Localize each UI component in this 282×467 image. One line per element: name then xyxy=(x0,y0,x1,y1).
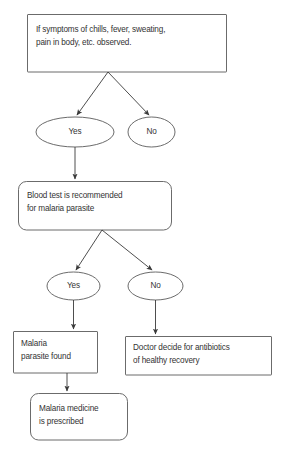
flowchart-canvas: If symptoms of chills, fever, sweating, … xyxy=(0,0,282,467)
node-label-parasite-found: Malaria parasite found xyxy=(21,338,95,363)
node-symptoms[interactable]: If symptoms of chills, fever, sweating, … xyxy=(27,14,227,72)
node-no-1[interactable]: No xyxy=(128,117,175,147)
node-yes-2[interactable]: Yes xyxy=(47,272,100,300)
edge-blood-test-to-no-2 xyxy=(102,230,152,270)
edge-symptoms-to-yes-1 xyxy=(77,72,108,115)
node-medicine[interactable]: Malaria medicine is prescribed xyxy=(30,393,128,440)
edge-symptoms-to-no-1 xyxy=(108,72,149,115)
node-label-antibiotics: Doctor decide for antibiotics of healthy… xyxy=(133,342,269,367)
node-label-medicine: Malaria medicine is prescribed xyxy=(39,403,125,428)
node-blood-test[interactable]: Blood test is recommended for malaria pa… xyxy=(18,181,172,230)
node-label-symptoms: If symptoms of chills, fever, sweating, … xyxy=(36,24,220,49)
node-label-no-1: No xyxy=(128,126,175,139)
node-label-blood-test: Blood test is recommended for malaria pa… xyxy=(27,190,167,215)
node-no-2[interactable]: No xyxy=(128,272,183,300)
node-label-no-2: No xyxy=(128,280,183,293)
edge-blood-test-to-yes-2 xyxy=(76,230,102,270)
node-yes-1[interactable]: Yes xyxy=(36,117,114,147)
node-antibiotics[interactable]: Doctor decide for antibiotics of healthy… xyxy=(125,336,272,375)
node-label-yes-1: Yes xyxy=(36,126,114,139)
node-parasite-found[interactable]: Malaria parasite found xyxy=(13,331,98,373)
node-label-yes-2: Yes xyxy=(47,280,100,293)
